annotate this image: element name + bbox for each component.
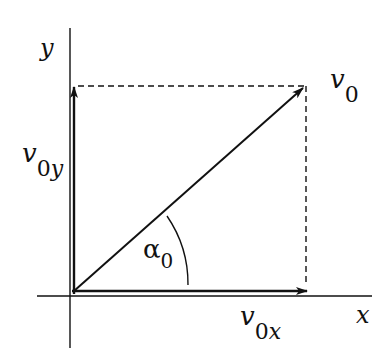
alpha0-label: α0 xyxy=(143,234,173,273)
v0-label: v0 xyxy=(330,64,359,107)
velocity-decomposition-diagram: y x v0 v0y v0x α0 xyxy=(0,0,382,360)
y-axis-label: y xyxy=(39,34,54,62)
x-axis-label: x xyxy=(356,301,370,329)
v0y-label: v0y xyxy=(22,138,64,181)
v0x-label: v0x xyxy=(240,301,282,344)
v0-vector xyxy=(74,88,303,291)
